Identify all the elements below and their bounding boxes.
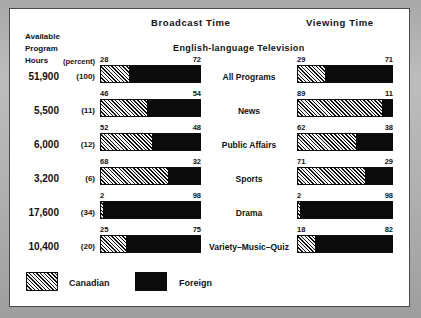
bar-segment-canadian (298, 168, 365, 184)
row-percent: (34) (61, 208, 95, 217)
value-label-broadcast-foreign: 75 (181, 225, 201, 234)
bar-viewing (297, 167, 393, 185)
value-label-viewing-foreign: 38 (373, 123, 393, 132)
bar-segment-foreign (300, 202, 392, 218)
row-hours: 17,600 (9, 207, 59, 218)
bar-broadcast (100, 235, 201, 253)
value-label-viewing-canadian: 62 (297, 123, 305, 132)
bar-segment-foreign (365, 168, 392, 184)
row-category: News (206, 106, 292, 116)
row-percent: (100) (61, 72, 95, 81)
chart-image: Broadcast Time Viewing Time English-lang… (0, 0, 421, 318)
row-category: Public Affairs (206, 140, 292, 150)
bar-broadcast (100, 65, 201, 83)
value-label-broadcast-canadian: 28 (100, 55, 108, 64)
bar-segment-canadian (101, 168, 168, 184)
bar-viewing (297, 99, 393, 117)
col-header-available: Available (25, 32, 60, 41)
value-label-viewing-canadian: 18 (297, 225, 305, 234)
bar-segment-canadian (298, 66, 325, 82)
bar-segment-foreign (382, 100, 392, 116)
col-header-program: Program (25, 44, 58, 53)
value-label-broadcast-foreign: 54 (181, 89, 201, 98)
row-category: Drama (206, 208, 292, 218)
chart-subtitle: English-language Television (173, 43, 305, 53)
row-percent: (20) (61, 242, 95, 251)
row-hours: 3,200 (9, 173, 59, 184)
bar-segment-foreign (325, 66, 392, 82)
row-category: Sports (206, 174, 292, 184)
row-percent: (6) (61, 174, 95, 183)
value-label-viewing-foreign: 71 (373, 55, 393, 64)
value-label-broadcast-canadian: 2 (100, 191, 104, 200)
row-hours: 51,900 (9, 71, 59, 82)
value-label-viewing-foreign: 82 (373, 225, 393, 234)
bar-segment-foreign (315, 236, 392, 252)
legend-label-canadian: Canadian (69, 278, 110, 288)
broadcast-time-title: Broadcast Time (151, 17, 231, 28)
value-label-viewing-foreign: 29 (373, 157, 393, 166)
value-label-viewing-canadian: 29 (297, 55, 305, 64)
legend-swatch-foreign (135, 272, 167, 291)
col-header-percent: (percent) (63, 57, 95, 66)
value-label-broadcast-foreign: 48 (181, 123, 201, 132)
bar-segment-canadian (101, 236, 126, 252)
bar-segment-foreign (129, 66, 200, 82)
row-hours: 5,500 (9, 105, 59, 116)
value-label-viewing-canadian: 89 (297, 89, 305, 98)
bar-broadcast (100, 99, 201, 117)
bar-segment-foreign (147, 100, 200, 116)
legend-label-foreign: Foreign (179, 278, 212, 288)
bar-broadcast (100, 133, 201, 151)
row-percent: (11) (61, 106, 95, 115)
value-label-viewing-foreign: 11 (373, 89, 393, 98)
chart-canvas: Broadcast Time Viewing Time English-lang… (9, 8, 410, 307)
bar-broadcast (100, 201, 201, 219)
chart-border: Broadcast Time Viewing Time English-lang… (9, 8, 410, 307)
viewing-time-title: Viewing Time (306, 17, 374, 28)
value-label-broadcast-canadian: 25 (100, 225, 108, 234)
bar-segment-foreign (126, 236, 200, 252)
bar-viewing (297, 201, 393, 219)
bar-segment-canadian (101, 66, 129, 82)
bar-segment-foreign (356, 134, 392, 150)
value-label-broadcast-canadian: 52 (100, 123, 108, 132)
value-label-viewing-canadian: 2 (297, 191, 301, 200)
row-percent: (12) (61, 140, 95, 149)
bar-segment-canadian (298, 100, 382, 116)
row-hours: 6,000 (9, 139, 59, 150)
bar-segment-foreign (103, 202, 200, 218)
bar-segment-canadian (101, 100, 147, 116)
value-label-broadcast-foreign: 98 (181, 191, 201, 200)
value-label-broadcast-canadian: 46 (100, 89, 108, 98)
value-label-broadcast-canadian: 68 (100, 157, 108, 166)
bar-segment-foreign (168, 168, 200, 184)
value-label-viewing-foreign: 98 (373, 191, 393, 200)
col-header-hours: Hours (25, 56, 48, 65)
bar-segment-foreign (152, 134, 200, 150)
bar-broadcast (100, 167, 201, 185)
value-label-broadcast-foreign: 72 (181, 55, 201, 64)
row-hours: 10,400 (9, 241, 59, 252)
value-label-viewing-canadian: 71 (297, 157, 305, 166)
value-label-broadcast-foreign: 32 (181, 157, 201, 166)
row-category: All Programs (206, 72, 292, 82)
bar-segment-canadian (298, 134, 356, 150)
bar-viewing (297, 133, 393, 151)
bar-segment-canadian (298, 236, 315, 252)
bar-segment-canadian (101, 134, 152, 150)
bar-viewing (297, 235, 393, 253)
bar-viewing (297, 65, 393, 83)
row-category: Variety–Music–Quiz (199, 242, 299, 252)
legend-swatch-canadian (26, 272, 58, 291)
